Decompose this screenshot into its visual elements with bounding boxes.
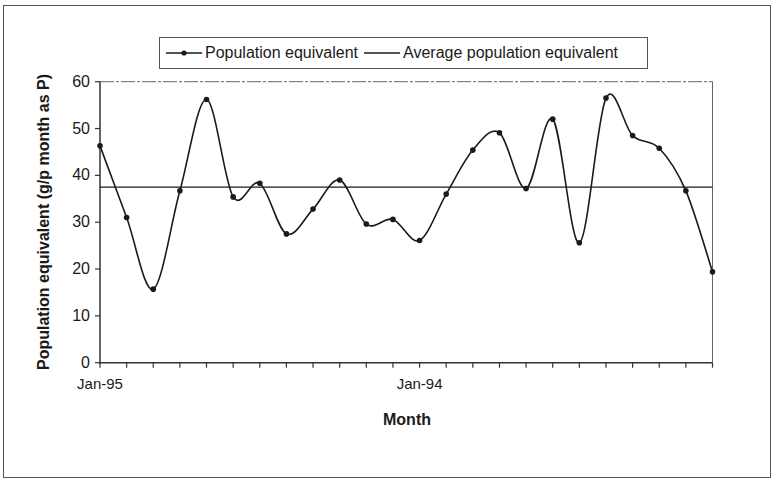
- data-point-marker: [364, 221, 370, 227]
- data-point-marker: [337, 177, 343, 183]
- data-point-marker: [204, 97, 210, 103]
- data-point-marker: [497, 130, 503, 136]
- data-point-marker: [630, 133, 636, 139]
- data-point-marker: [97, 143, 103, 149]
- data-point-marker: [550, 116, 556, 122]
- population-equivalent-line: [100, 94, 713, 289]
- data-point-marker: [150, 286, 156, 292]
- data-point-marker: [523, 186, 529, 192]
- data-point-marker: [390, 217, 396, 223]
- data-point-marker: [603, 95, 609, 101]
- plot-area: [0, 0, 777, 489]
- data-point-marker: [683, 188, 689, 194]
- data-point-marker: [577, 240, 583, 246]
- data-point-marker: [124, 215, 130, 221]
- data-point-marker: [417, 238, 423, 244]
- data-point-marker: [284, 231, 290, 237]
- data-point-marker: [656, 145, 662, 151]
- data-point-marker: [443, 191, 449, 197]
- data-point-marker: [310, 206, 316, 212]
- data-point-marker: [470, 147, 476, 153]
- data-point-marker: [710, 269, 716, 275]
- data-point-marker: [177, 188, 183, 194]
- data-point-marker: [257, 181, 263, 187]
- data-point-marker: [230, 194, 236, 200]
